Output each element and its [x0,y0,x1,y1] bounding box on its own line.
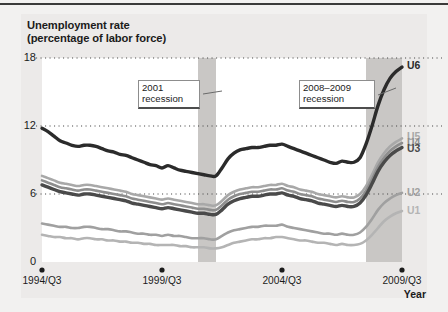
x-tick-dot-2 [279,267,284,272]
y-tick-label-6: 6 [14,187,36,199]
y-tick-label-12: 12 [14,119,36,131]
legend-label-u1: U1 [407,205,420,216]
recession-band-1 [198,58,216,262]
recession-2001-line-2: recession [142,93,195,104]
x-tick-dot-0 [39,267,44,272]
recession-2008-2009-line-2: recession [303,93,370,104]
figure-container: Unemployment rate (percentage of labor f… [0,0,448,312]
x-tick-dot-1 [159,267,164,272]
legend-label-u6: U6 [407,60,420,71]
y-tick-label-0: 0 [14,255,36,267]
x-tick-label-1999-Q3: 1999/Q3 [127,275,197,286]
legend-label-u2: U2 [407,187,420,198]
recession-2001-line-1: 2001 [142,82,195,93]
x-tick-dot-3 [399,267,404,272]
chart-svg [0,0,448,312]
recession-2008-2009-line-1: 2008–2009 [303,82,370,93]
x-tick-label-2009-Q3: 2009/Q3 [367,275,437,286]
x-axis-title: Year [404,288,426,300]
recession-2001-annotation: 2001recession [138,80,200,109]
x-tick-label-1994-Q3: 1994/Q3 [7,275,77,286]
x-tick-label-2004-Q3: 2004/Q3 [247,275,317,286]
legend-label-u3: U3 [407,143,420,154]
y-tick-label-18: 18 [14,51,36,63]
recession-2008-2009-annotation: 2008–2009recession [299,80,375,109]
